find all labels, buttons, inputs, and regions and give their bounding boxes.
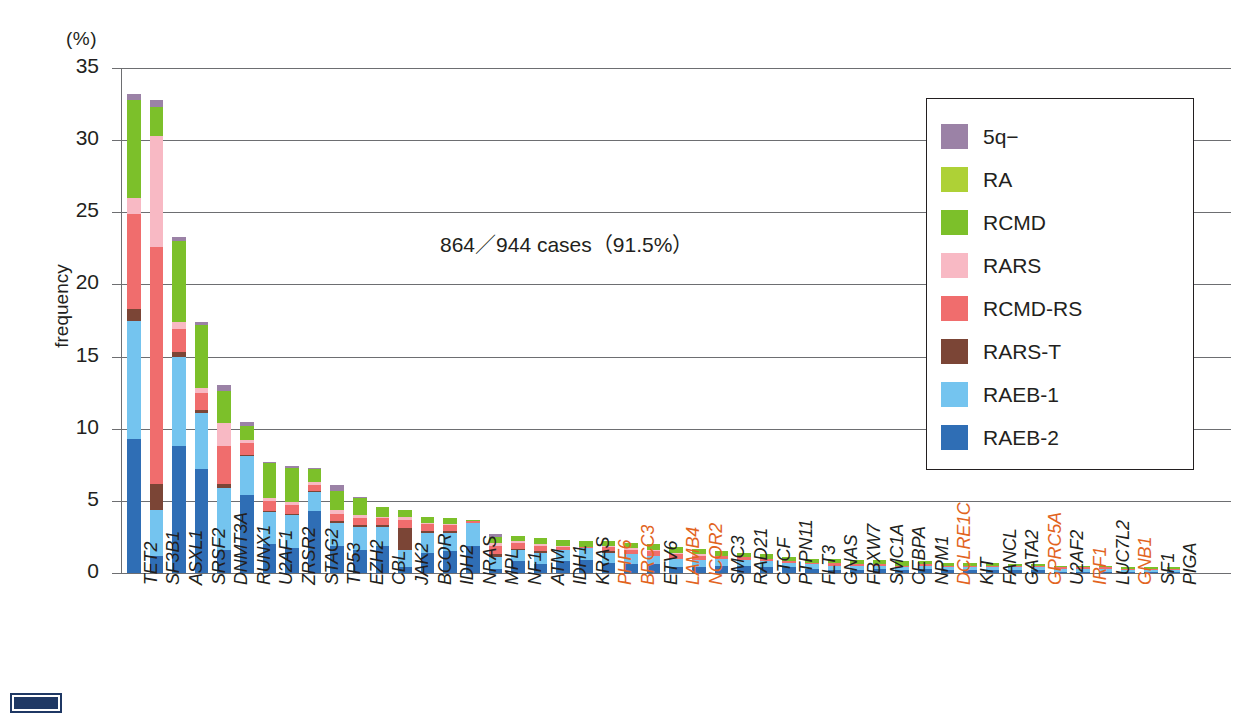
x-label-STAG2: STAG2 <box>322 528 343 585</box>
legend-item-RARS-T[interactable]: RARS-T <box>941 330 1193 373</box>
x-label-TET2: TET2 <box>141 542 162 585</box>
x-label-ETV6: ETV6 <box>661 541 682 585</box>
y-axis-line <box>121 68 122 574</box>
legend-item-5q−[interactable]: 5q− <box>941 115 1193 158</box>
segment-JAK2-RCMD-RS <box>398 520 412 529</box>
y-tick-15 <box>112 357 121 358</box>
segment-SF3B1-5q- <box>150 100 164 107</box>
segment-SRSF2-RAEB-1 <box>195 413 209 469</box>
segment-SF3B1-RARS <box>150 136 164 247</box>
x-label-NPM1: NPM1 <box>932 536 953 585</box>
x-label-NCOR2: NCOR2 <box>706 523 727 585</box>
segment-EZH2-RCMD-RS <box>353 518 367 525</box>
segment-ZRSR2-RCMD <box>285 468 299 503</box>
legend-label-RCMD: RCMD <box>983 211 1046 235</box>
x-label-LUC7L2: LUC7L2 <box>1113 520 1134 585</box>
x-label-IDH1: IDH1 <box>570 545 591 585</box>
bar-SF3B1[interactable] <box>150 100 164 573</box>
y-tick-label-35: 35 <box>53 54 99 78</box>
segment-TP53-RCMD <box>330 491 344 510</box>
y-tick-label-10: 10 <box>53 415 99 439</box>
segment-SF3B1-RARS-T <box>150 484 164 510</box>
bar-TET2[interactable] <box>127 94 141 573</box>
x-label-KRAS: KRAS <box>593 537 614 585</box>
segment-SF3B1-RCMD-RS <box>150 247 164 484</box>
x-label-PTPN11: PTPN11 <box>796 520 817 586</box>
segment-RUNX1-RCMD-RS <box>240 443 254 455</box>
segment-ASXL1-RAEB-1 <box>172 357 186 446</box>
legend-item-RAEB-2[interactable]: RAEB-2 <box>941 416 1193 459</box>
y-tick-10 <box>112 429 121 430</box>
x-label-U2AF2: U2AF2 <box>1067 530 1088 585</box>
x-label-DCLRE1C: DCLRE1C <box>954 502 975 585</box>
y-tick-25 <box>112 212 121 213</box>
legend: 5q−RARCMDRARSRCMD-RSRARS-TRAEB-1RAEB-2 <box>926 98 1194 470</box>
legend-swatch-RAEB-1 <box>941 382 968 407</box>
legend-swatch-RA <box>941 167 968 192</box>
segment-TET2-RCMD-RS <box>127 214 141 309</box>
x-label-SMC3: SMC3 <box>728 536 749 585</box>
x-label-SMC1A: SMC1A <box>887 524 908 585</box>
caption-strip <box>0 689 1253 715</box>
y-tick-label-20: 20 <box>53 270 99 294</box>
x-label-PHF6: PHF6 <box>615 540 636 585</box>
x-label-KIT: KIT <box>977 558 998 585</box>
legend-swatch-5q− <box>941 124 968 149</box>
segment-U2AF1-RCMD-RS <box>263 501 277 511</box>
segment-ASXL1-RCMD-RS <box>172 329 186 352</box>
legend-label-RARS-T: RARS-T <box>983 340 1061 364</box>
segment-DNMT3A-RARS <box>217 423 231 446</box>
segment-ASXL1-RARS <box>172 322 186 329</box>
x-label-NRAS: NRAS <box>480 536 501 585</box>
y-tick-label-5: 5 <box>53 487 99 511</box>
legend-label-RAEB-1: RAEB-1 <box>983 383 1059 407</box>
x-label-MPL: MPL <box>502 549 523 585</box>
y-tick-0 <box>112 573 121 574</box>
legend-swatch-RARS <box>941 253 968 278</box>
x-label-ZRSR2: ZRSR2 <box>299 527 320 585</box>
segment-CBL-RCMD <box>376 507 390 517</box>
y-tick-30 <box>112 140 121 141</box>
x-label-SRSF2: SRSF2 <box>209 528 230 585</box>
segment-TET2-RARS-T <box>127 309 141 321</box>
legend-item-RARS[interactable]: RARS <box>941 244 1193 287</box>
stacked-bar-chart-figure: (%) frequency 05101520253035 TET2SF3B1AS… <box>0 0 1253 715</box>
x-label-BRCC3: BRCC3 <box>638 525 659 585</box>
segment-BCOR-RCMD-RS <box>421 524 435 531</box>
legend-label-RA: RA <box>983 168 1012 192</box>
x-label-SF3B1: SF3B1 <box>163 531 184 585</box>
bar-ASXL1[interactable] <box>172 237 186 573</box>
legend-swatch-RAEB-2 <box>941 425 968 450</box>
x-label-PIGA: PIGA <box>1180 543 1201 585</box>
segment-TP53-RCMD-RS <box>330 514 344 521</box>
x-label-CTCF: CTCF <box>774 538 795 585</box>
segment-TET2-RAEB-2 <box>127 439 141 573</box>
legend-item-RAEB-1[interactable]: RAEB-1 <box>941 373 1193 416</box>
x-label-CBL: CBL <box>389 551 410 585</box>
legend-label-RAEB-2: RAEB-2 <box>983 426 1059 450</box>
x-label-FLT3: FLT3 <box>819 545 840 585</box>
x-label-FBXW7: FBXW7 <box>864 524 885 585</box>
segment-EZH2-RCMD <box>353 498 367 515</box>
legend-item-RCMD[interactable]: RCMD <box>941 201 1193 244</box>
segment-SRSF2-RCMD <box>195 325 209 388</box>
y-tick-label-30: 30 <box>53 126 99 150</box>
segment-STAG2-RAEB-1 <box>308 492 322 511</box>
segment-ZRSR2-RCMD-RS <box>285 505 299 514</box>
segment-SF3B1-RCMD <box>150 107 164 136</box>
segment-DNMT3A-RCMD-RS <box>217 446 231 484</box>
x-label-GNB1: GNB1 <box>1135 537 1156 585</box>
legend-item-RCMD-RS[interactable]: RCMD-RS <box>941 287 1193 330</box>
legend-item-RA[interactable]: RA <box>941 158 1193 201</box>
x-label-GPRC5A: GPRC5A <box>1045 512 1066 585</box>
x-label-BCOR: BCOR <box>435 534 456 585</box>
segment-TET2-RAEB-1 <box>127 321 141 439</box>
legend-label-5q−: 5q− <box>983 125 1019 149</box>
x-label-IRF1: IRF1 <box>1090 547 1111 585</box>
x-label-ATM: ATM <box>548 549 569 585</box>
x-label-RUNX1: RUNX1 <box>254 525 275 585</box>
segment-TET2-RARS <box>127 198 141 214</box>
segment-STAG2-RCMD <box>308 469 322 482</box>
segment-ASXL1-RCMD <box>172 241 186 322</box>
x-label-GATA2: GATA2 <box>1022 530 1043 585</box>
